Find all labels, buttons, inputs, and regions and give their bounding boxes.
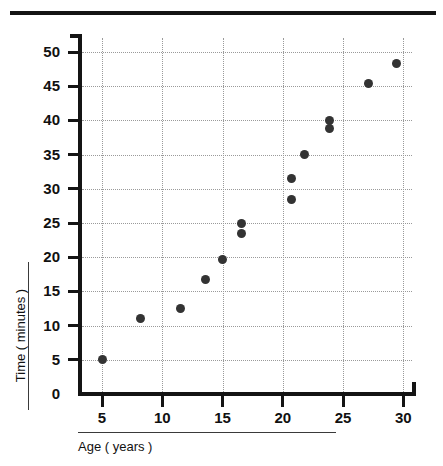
x-axis-tick-label: 5 xyxy=(82,410,122,425)
x-axis-tick-label: 10 xyxy=(142,410,182,425)
y-axis-tick xyxy=(68,51,79,54)
data-point xyxy=(325,124,334,133)
x-axis-tick xyxy=(402,396,405,407)
y-axis-tick xyxy=(68,324,79,327)
y-axis-tick-label-text: 45 xyxy=(14,78,60,93)
y-axis-tick-label: 25 xyxy=(14,215,60,231)
y-axis-title: Time ( minutes ) xyxy=(2,262,36,410)
gridline-horizontal xyxy=(82,360,412,361)
x-axis-tick xyxy=(161,396,164,407)
gridline-vertical xyxy=(343,38,344,392)
gridline-vertical xyxy=(102,38,103,392)
x-axis-line xyxy=(78,392,416,396)
x-axis-tick-label: 30 xyxy=(383,410,423,425)
top-divider-rule xyxy=(10,11,436,15)
gridline-horizontal xyxy=(82,257,412,258)
gridline-horizontal xyxy=(82,223,412,224)
data-point xyxy=(237,219,246,228)
data-point xyxy=(392,59,401,68)
y-axis-tick-label-text: 30 xyxy=(14,181,60,196)
y-axis-tick-label: 45 xyxy=(14,78,60,94)
x-axis-title-rule xyxy=(78,432,336,433)
gridline-vertical xyxy=(283,38,284,392)
y-axis-title-rule xyxy=(28,262,29,410)
x-axis-tick-label: 25 xyxy=(323,410,363,425)
gridline-horizontal xyxy=(82,189,412,190)
y-axis-tick-label: 30 xyxy=(14,181,60,197)
y-axis-tick xyxy=(68,256,79,259)
y-axis-tick xyxy=(68,153,79,156)
data-point xyxy=(237,229,246,238)
y-axis-tick xyxy=(68,222,79,225)
x-axis-tick-label: 20 xyxy=(263,410,303,425)
y-axis-tick-label-text: 50 xyxy=(14,44,60,59)
x-axis-tick xyxy=(342,396,345,407)
gridline-horizontal xyxy=(82,291,412,292)
x-axis-tick xyxy=(281,396,284,407)
scatter-plot-page: 05101520253035404550 51015202530 Time ( … xyxy=(0,0,443,466)
y-axis-line xyxy=(78,34,82,396)
y-axis-tick-label: 50 xyxy=(14,44,60,60)
data-point xyxy=(136,314,145,323)
gridline-horizontal xyxy=(82,120,412,121)
y-axis-tick xyxy=(68,358,79,361)
data-point xyxy=(218,255,227,264)
x-axis-title-label: Age ( years ) xyxy=(78,439,152,454)
x-axis-tick xyxy=(101,396,104,407)
gridline-vertical xyxy=(403,38,404,392)
data-point xyxy=(300,150,309,159)
gridline-horizontal xyxy=(82,326,412,327)
x-axis-right-cap xyxy=(412,382,416,396)
y-axis-tick-label-text: 35 xyxy=(14,147,60,162)
y-axis-tick xyxy=(68,85,79,88)
x-axis-title: Age ( years ) xyxy=(78,432,338,462)
data-point xyxy=(176,304,185,313)
y-axis-tick xyxy=(68,187,79,190)
data-point xyxy=(364,79,373,88)
x-axis-tick xyxy=(221,396,224,407)
y-axis-tick-label-text: 25 xyxy=(14,215,60,230)
data-point xyxy=(287,174,296,183)
gridline-horizontal xyxy=(82,86,412,87)
data-point xyxy=(201,275,210,284)
y-axis-title-label: Time ( minutes ) xyxy=(13,262,28,410)
x-axis-tick-label: 15 xyxy=(203,410,243,425)
gridline-vertical xyxy=(223,38,224,392)
y-axis-tick-label: 40 xyxy=(14,112,60,128)
gridline-horizontal xyxy=(82,155,412,156)
data-point xyxy=(287,195,296,204)
y-axis-top-cap xyxy=(70,34,82,38)
y-axis-tick xyxy=(68,119,79,122)
y-axis-tick-label-text: 40 xyxy=(14,112,60,127)
gridline-vertical xyxy=(162,38,163,392)
gridline-horizontal xyxy=(82,52,412,53)
data-point xyxy=(98,355,107,364)
y-axis-tick xyxy=(68,290,79,293)
y-axis-tick-label: 35 xyxy=(14,147,60,163)
